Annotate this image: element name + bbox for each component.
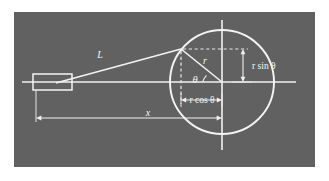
- label-r-cos-theta: r cos θ: [189, 95, 215, 105]
- label-angle-theta: θ: [192, 74, 197, 85]
- label-displacement-x: x: [145, 107, 151, 118]
- crank-slider-diagram: L r θ r sin θ r cos θ x: [0, 0, 329, 181]
- label-rod-length: L: [96, 49, 103, 60]
- figure-root: L r θ r sin θ r cos θ x: [0, 0, 329, 181]
- label-crank-radius: r: [203, 55, 207, 66]
- label-r-sin-theta: r sin θ: [252, 61, 276, 71]
